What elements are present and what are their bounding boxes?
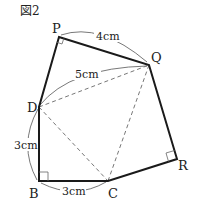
- dashed-qc: [108, 65, 149, 181]
- vertex-label-q: Q: [151, 50, 162, 65]
- label-dq-length: 5cm: [75, 68, 99, 81]
- figure-title: 図2: [20, 4, 40, 18]
- dashed-dc: [39, 107, 108, 181]
- vertex-label-r: R: [178, 158, 189, 173]
- vertex-label-c: C: [108, 186, 118, 201]
- vertex-label-d: D: [27, 100, 37, 115]
- label-db-length: 3cm: [14, 139, 38, 152]
- label-bc-length: 3cm: [62, 185, 86, 198]
- label-pq-length: 4cm: [96, 30, 120, 43]
- geometry-figure: 図2 4cm 5cm 3cm 3cm P Q D R B C: [0, 0, 201, 208]
- right-angle-b: [39, 172, 48, 181]
- vertex-label-b: B: [29, 186, 39, 201]
- vertex-label-p: P: [52, 21, 61, 36]
